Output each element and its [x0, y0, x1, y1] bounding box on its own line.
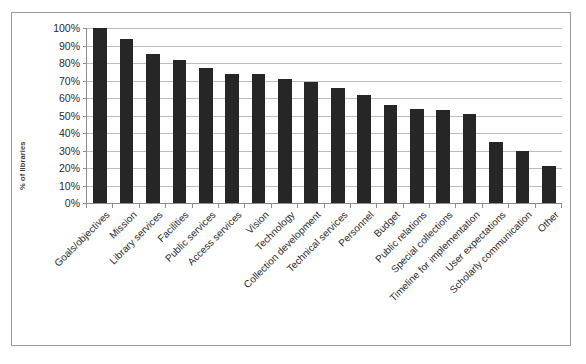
x-axis-tick: [403, 203, 404, 208]
y-axis-title: % of libraries: [16, 131, 30, 201]
bar: [489, 142, 503, 203]
chart-figure: % of libraries 0%10%20%30%40%50%60%70%80…: [11, 12, 571, 346]
x-axis-tick: [561, 203, 562, 208]
x-axis-tick: [535, 203, 536, 208]
bar: [120, 39, 134, 204]
y-axis-tick-label: 80%: [59, 58, 80, 69]
x-axis-tick: [86, 203, 87, 208]
x-axis-tick: [192, 203, 193, 208]
x-axis-tick: [244, 203, 245, 208]
bar: [252, 74, 266, 204]
x-axis-tick: [218, 203, 219, 208]
x-axis-tick: [139, 203, 140, 208]
bar: [357, 95, 371, 204]
bars-layer: [87, 28, 562, 203]
bar: [516, 151, 530, 204]
plot-area: [86, 28, 562, 203]
x-axis-ticks: [86, 203, 562, 208]
bar: [278, 79, 292, 203]
y-axis-tick-label: 10%: [59, 180, 80, 191]
x-axis-tick: [271, 203, 272, 208]
x-axis-tick: [112, 203, 113, 208]
x-axis-category-label: Other: [535, 209, 560, 234]
bar: [304, 82, 318, 203]
y-axis-tick-label: 60%: [59, 93, 80, 104]
bar: [173, 60, 187, 204]
y-axis-tick-label: 0%: [65, 198, 80, 209]
x-axis-tick: [165, 203, 166, 208]
bar: [542, 166, 556, 203]
bar: [331, 88, 345, 204]
bar: [436, 110, 450, 203]
y-axis-tick-label: 50%: [59, 110, 80, 121]
x-axis-tick: [350, 203, 351, 208]
bar: [199, 68, 213, 203]
x-axis-tick: [508, 203, 509, 208]
y-axis-tick-label: 100%: [53, 23, 80, 34]
y-axis-tick-label: 90%: [59, 40, 80, 51]
x-axis-tick: [429, 203, 430, 208]
bar: [410, 109, 424, 204]
x-axis-tick: [297, 203, 298, 208]
y-axis-tick-label: 40%: [59, 128, 80, 139]
bar: [225, 74, 239, 204]
x-axis-tick: [324, 203, 325, 208]
bar: [146, 54, 160, 203]
bar: [384, 105, 398, 203]
x-axis-tick: [376, 203, 377, 208]
y-axis-tick-label: 70%: [59, 75, 80, 86]
y-axis-tick-label: 30%: [59, 145, 80, 156]
x-axis-category-label: Goals/objectives: [52, 209, 112, 269]
bar: [93, 28, 107, 203]
y-axis-tick-labels: 0%10%20%30%40%50%60%70%80%90%100%: [30, 23, 84, 203]
x-axis-category-labels: Goals/objectivesMissionLibrary servicesF…: [12, 209, 572, 345]
bar: [463, 114, 477, 203]
y-axis-tick-label: 20%: [59, 163, 80, 174]
x-axis-tick: [482, 203, 483, 208]
x-axis-tick: [455, 203, 456, 208]
